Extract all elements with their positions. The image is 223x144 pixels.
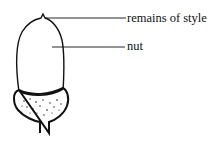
label-nut: nut [127,40,143,53]
nut-shape [17,14,64,92]
label-remains-of-style: remains of style [127,12,207,25]
